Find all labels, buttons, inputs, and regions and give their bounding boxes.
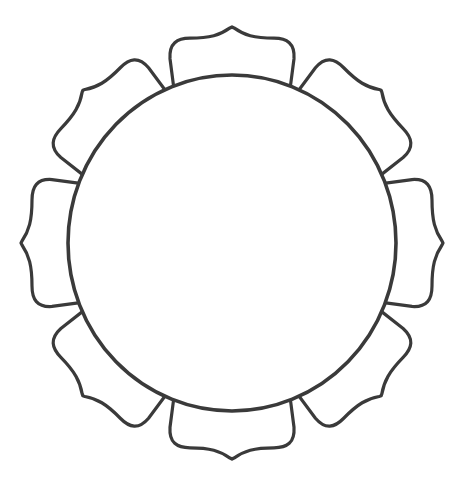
lotus-frame [0,0,464,479]
lotus-frame-drawing [0,0,464,479]
center-circle [68,75,396,411]
